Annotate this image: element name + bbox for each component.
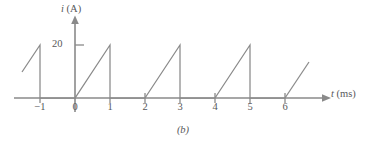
x-axis-unit: (ms) <box>337 88 356 99</box>
x-tick-label-4: 4 <box>205 101 225 112</box>
x-axis-arrow-icon <box>322 94 331 102</box>
figure-sawtooth-current-waveform: i (A) t (ms) 20 −1 0 1 2 3 4 5 6 (b) <box>0 0 366 147</box>
waveform-segment-cycle-2 <box>145 45 215 98</box>
waveform-segment-partial-left <box>22 45 40 98</box>
x-axis-symbol: t <box>331 88 334 99</box>
waveform-segment-partial-right <box>285 62 309 98</box>
x-tick-label-0: 0 <box>65 101 85 112</box>
x-tick-label-5: 5 <box>240 101 260 112</box>
x-tick-label-2: 2 <box>135 101 155 112</box>
y-axis-unit: (A) <box>67 3 82 14</box>
x-axis-title: t (ms) <box>331 89 356 100</box>
y-axis-symbol: i <box>61 3 64 14</box>
x-tick-label-1: 1 <box>100 101 120 112</box>
y-axis-arrow-icon <box>71 16 79 25</box>
x-tick-label-3: 3 <box>170 101 190 112</box>
waveform-segment-cycle-1 <box>40 45 145 98</box>
y-axis-title: i (A) <box>61 4 81 15</box>
figure-caption: (b) <box>0 124 366 135</box>
waveform-segment-cycle-3 <box>215 45 285 98</box>
x-tick-label-minus1: −1 <box>30 101 50 112</box>
x-tick-label-6: 6 <box>275 101 295 112</box>
y-tick-label-20: 20 <box>52 39 63 50</box>
